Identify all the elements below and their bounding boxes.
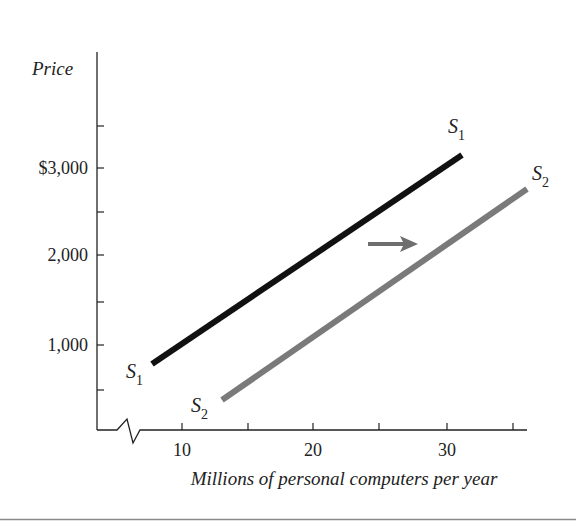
x-tick-label: 30 [438,440,456,460]
y-tick-label: 2,000 [48,245,89,265]
y-axis-title: Price [31,58,73,79]
supply-curve-s2 [222,189,527,400]
y-tick-label: $3,000 [39,158,89,178]
y-ticks [97,126,104,390]
supply-curve-s1 [152,155,462,364]
y-tick-label: 1,000 [48,335,89,355]
x-axis-title: Millions of personal computers per year [190,468,498,489]
s2-start-label: S2 [191,394,208,422]
shift-arrow-icon [368,236,418,252]
x-tick-label: 20 [304,440,322,460]
s2-end-label: S2 [532,162,549,190]
s1-start-label: S1 [126,360,143,388]
supply-chart: Price $3,000 2,000 1,000 10 20 30 Millio… [0,0,576,521]
x-ticks [182,423,513,430]
x-tick-label: 10 [173,440,191,460]
s1-end-label: S1 [448,115,465,143]
